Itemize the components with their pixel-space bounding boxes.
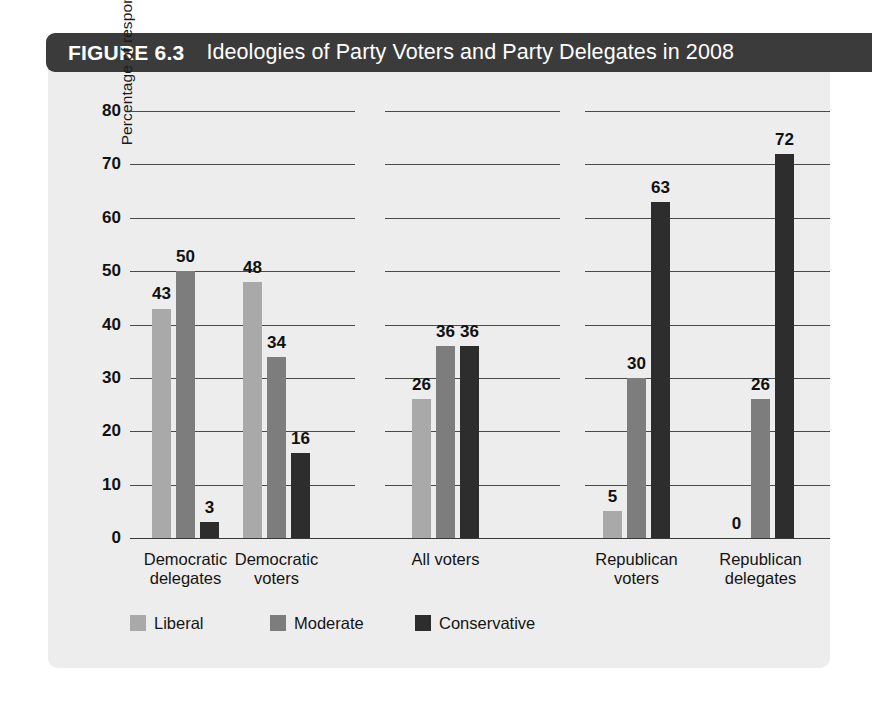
legend-label: Moderate bbox=[294, 614, 364, 633]
figure-root: FIGURE 6.3 Ideologies of Party Voters an… bbox=[0, 0, 872, 716]
figure-number: FIGURE 6.3 bbox=[68, 41, 184, 65]
legend-item: Liberal bbox=[130, 614, 204, 633]
legend-swatch-liberal bbox=[130, 615, 146, 631]
chart-legend: LiberalModerateConservative bbox=[130, 613, 550, 633]
figure-title-bar: FIGURE 6.3 Ideologies of Party Voters an… bbox=[46, 33, 872, 72]
figure-panel bbox=[48, 40, 830, 668]
legend-item: Moderate bbox=[270, 614, 364, 633]
legend-swatch-conservative bbox=[415, 615, 431, 631]
legend-item: Conservative bbox=[415, 614, 535, 633]
legend-label: Conservative bbox=[439, 614, 535, 633]
legend-label: Liberal bbox=[154, 614, 204, 633]
figure-title: Ideologies of Party Voters and Party Del… bbox=[206, 40, 734, 65]
legend-swatch-moderate bbox=[270, 615, 286, 631]
